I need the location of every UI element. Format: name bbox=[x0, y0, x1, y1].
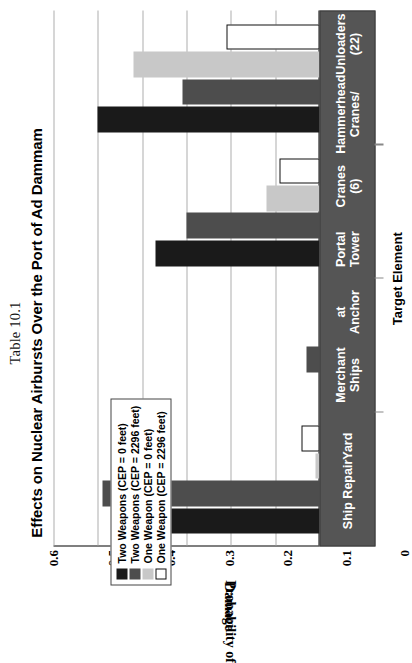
category-label-line1: Portal Tower bbox=[333, 214, 361, 283]
title-block: Table 10.1 Effects on Nuclear Airbursts … bbox=[6, 10, 44, 655]
bar bbox=[133, 51, 319, 77]
legend: Two Weapons (CEP = 0 feet)Two Weapons (C… bbox=[110, 398, 171, 585]
y-axis-tick-label: 0 bbox=[396, 549, 412, 556]
x-axis-tickmark bbox=[374, 143, 383, 144]
legend-item-label: One Weapon (CEP = 0 feet) bbox=[141, 428, 153, 563]
category-label-line2: at Anchor bbox=[333, 287, 361, 335]
bar bbox=[226, 24, 319, 50]
category-label-line2: Yard bbox=[340, 432, 354, 459]
y-axis-tick-label: 0.6 bbox=[45, 549, 61, 565]
legend-item-label: Two Weapons (CEP = 0 feet) bbox=[115, 423, 127, 563]
bar bbox=[186, 212, 319, 238]
y-axis-tick-label: 0.2 bbox=[279, 549, 295, 565]
legend-item: Two Weapons (CEP = 2296 feet) bbox=[128, 405, 140, 579]
bar bbox=[266, 185, 319, 211]
category-label: Ship RepairYard bbox=[320, 415, 374, 545]
x-axis-tickmark bbox=[374, 411, 383, 412]
y-axis-title-line2: Damage bbox=[221, 582, 236, 631]
bar bbox=[182, 79, 319, 105]
y-axis-title: Probability of Damage bbox=[53, 572, 404, 655]
y-axis-tick-label: 0.3 bbox=[221, 549, 237, 565]
chart-column: Ship RepairYardMerchant Shipsat AnchorPo… bbox=[53, 10, 404, 546]
category-label-line2: Cranes (6) bbox=[333, 157, 361, 214]
bar bbox=[155, 240, 319, 266]
legend-swatch-black bbox=[116, 568, 127, 579]
legend-item: One Weapon (CEP = 2296 feet) bbox=[154, 405, 166, 579]
y-axis-tick-label: 0.1 bbox=[338, 549, 354, 565]
legend-swatch-lightgray bbox=[142, 568, 153, 579]
figure-title: Effects on Nuclear Airbursts Over the Po… bbox=[27, 10, 44, 655]
category-label: Portal TowerCranes (6) bbox=[320, 155, 374, 285]
legend-swatch-white bbox=[155, 568, 166, 579]
y-axis-ticks: 00.10.20.30.40.50.6 bbox=[53, 546, 404, 572]
bar bbox=[315, 453, 319, 479]
category-label-line1: Hammerhead Cranes/ bbox=[333, 74, 361, 153]
category-label-line1: Merchant Ships bbox=[333, 336, 361, 414]
legend-item-label: Two Weapons (CEP = 2296 feet) bbox=[128, 405, 140, 563]
table-number: Table 10.1 bbox=[6, 10, 23, 655]
category-label-line2: Unloaders (22) bbox=[333, 13, 361, 74]
bar bbox=[97, 106, 319, 132]
bar bbox=[301, 425, 319, 451]
bar bbox=[306, 346, 319, 372]
bar bbox=[279, 158, 319, 184]
category-band: Ship RepairYardMerchant Shipsat AnchorPo… bbox=[319, 10, 375, 546]
chart-canvas bbox=[53, 10, 319, 546]
legend-item: One Weapon (CEP = 0 feet) bbox=[141, 405, 153, 579]
gridline bbox=[53, 10, 54, 545]
category-label: Merchant Shipsat Anchor bbox=[320, 285, 374, 415]
legend-item: Two Weapons (CEP = 0 feet) bbox=[115, 405, 127, 579]
plot-area: Probability of Damage 00.10.20.30.40.50.… bbox=[53, 10, 404, 655]
category-label-line1: Ship Repair bbox=[340, 459, 354, 528]
gridline bbox=[97, 10, 98, 545]
legend-swatch-darkgray bbox=[129, 568, 140, 579]
category-label: Hammerhead Cranes/Unloaders (22) bbox=[320, 11, 374, 155]
x-axis-tickmark bbox=[374, 277, 383, 278]
legend-item-label: One Weapon (CEP = 2296 feet) bbox=[154, 411, 166, 563]
